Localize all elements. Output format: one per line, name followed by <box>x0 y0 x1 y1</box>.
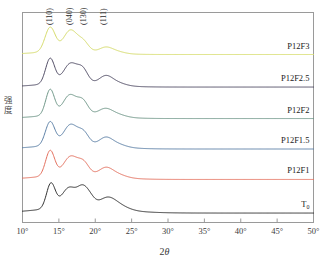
series-curve-P12F15 <box>23 121 314 149</box>
series-label-P12F3: P12F3 <box>287 41 309 51</box>
series-curve-P12F1 <box>23 150 314 179</box>
y-axis-label: 强 度 <box>2 96 14 115</box>
x-tick-label-3: 25° <box>126 226 138 236</box>
x-tick-label-2: 20° <box>89 226 101 236</box>
series-label-P12F25: P12F2.5 <box>281 73 310 83</box>
y-axis-label-char-2: 度 <box>2 106 14 116</box>
series-label-P12F1: P12F1 <box>287 165 309 175</box>
series-label-t0-subscript: 0 <box>307 204 310 210</box>
x-tick-label-8: 50° <box>308 226 320 236</box>
series-curve-P12F3 <box>23 27 314 54</box>
peak-label-110: (110) <box>45 8 54 25</box>
x-tick-label-0: 10° <box>17 226 29 236</box>
peak-label-040: (040) <box>65 8 74 25</box>
series-curve-P12F2 <box>23 89 314 118</box>
peak-label-130: (130) <box>79 8 88 25</box>
x-tick-label-6: 40° <box>235 226 247 236</box>
x-tick-label-5: 35° <box>198 226 210 236</box>
series-label-T: T0 <box>301 199 309 209</box>
x-tick-label-1: 15° <box>53 226 65 236</box>
x-tick-label-4: 30° <box>162 226 174 236</box>
series-label-P12F15: P12F1.5 <box>281 135 310 145</box>
peak-label-111: (111) <box>99 8 108 25</box>
series-label-P12F2: P12F2 <box>287 105 309 115</box>
plot-frame <box>23 13 314 223</box>
series-curve-P12F25 <box>23 58 314 87</box>
series-curve-T <box>23 183 314 213</box>
x-axis-label: 2θ <box>0 246 329 257</box>
xrd-chart-figure: 强 度 2θ 10°15°20°25°30°35°40°45°50° (110)… <box>0 0 329 271</box>
x-tick-label-7: 45° <box>271 226 283 236</box>
